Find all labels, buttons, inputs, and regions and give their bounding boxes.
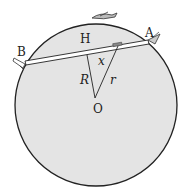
label-x: x: [98, 54, 105, 68]
label-O: O: [93, 102, 103, 116]
label-H: H: [80, 32, 90, 46]
label-R: R: [79, 73, 89, 87]
earth-tunnel-diagram: B A H x R r O: [0, 0, 181, 192]
label-B: B: [17, 45, 26, 59]
label-A: A: [144, 26, 154, 40]
airplane-icon: [92, 12, 117, 19]
rocket-b-icon: [13, 58, 25, 70]
